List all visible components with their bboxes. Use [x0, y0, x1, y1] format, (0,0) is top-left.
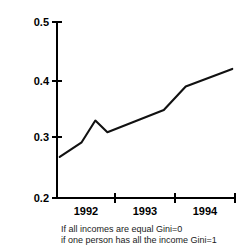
chart-canvas: 0.5 0.4 0.3 0.2 1992 1993 1994 If all in…	[0, 0, 250, 252]
y-axis-tick-label-0: 0.5	[34, 16, 49, 28]
gini-coefficient-chart-figure: 0.5 0.4 0.3 0.2 1992 1993 1994 If all in…	[0, 0, 250, 252]
x-axis-tick-label-1: 1993	[133, 205, 157, 217]
caption-line-2: if one person has all the income Gini=1	[61, 235, 217, 245]
gini-data-line	[60, 69, 233, 157]
y-axis-tick-label-1: 0.4	[34, 75, 50, 87]
y-axis-tick-label-3: 0.2	[34, 192, 49, 204]
x-axis-tick-label-0: 1992	[74, 205, 98, 217]
x-axis-tick-label-2: 1994	[193, 205, 218, 217]
caption-line-1: If all incomes are equal Gini=0	[61, 224, 182, 234]
y-axis-tick-label-2: 0.3	[34, 131, 49, 143]
